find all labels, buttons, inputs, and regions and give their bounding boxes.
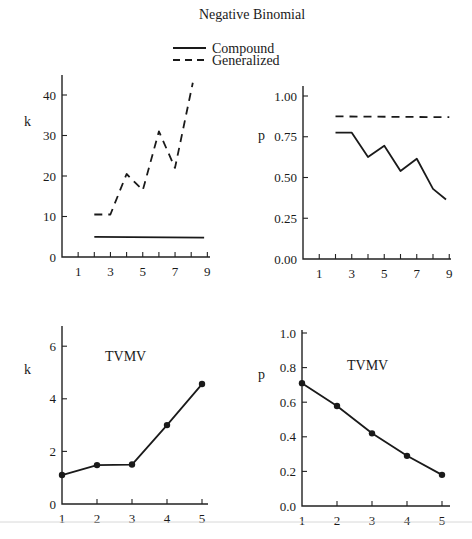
y-tick-label: 0.0: [280, 499, 296, 514]
data-point-marker: [59, 472, 65, 478]
y-tick-label: 0.50: [274, 170, 297, 185]
y-axis-label: k: [24, 114, 31, 129]
axes: [303, 86, 451, 259]
y-tick-label: 0.75: [274, 129, 297, 144]
x-tick-label: 3: [349, 266, 356, 281]
panel-annotation: TVMV: [105, 349, 146, 364]
y-tick-label: 0: [50, 497, 57, 512]
x-tick-label: 1: [299, 513, 306, 528]
y-axis-label: p: [258, 367, 265, 382]
panel-top-right-p: 0.000.250.500.751.0013579p: [258, 86, 453, 281]
x-tick-label: 7: [172, 264, 179, 279]
y-tick-label: 4: [50, 391, 57, 406]
x-tick-label: 9: [204, 264, 211, 279]
y-tick-label: 2: [50, 444, 57, 459]
figure-title: Negative Binomial: [199, 7, 305, 22]
legend-label-generalized: Generalized: [212, 53, 280, 68]
data-point-marker: [94, 462, 100, 468]
data-point-marker: [334, 403, 340, 409]
data-point-marker: [129, 461, 135, 467]
data-point-marker: [404, 453, 410, 459]
y-tick-label: 0.00: [274, 252, 297, 267]
series-line-generalized: [94, 83, 193, 215]
x-tick-label: 5: [439, 513, 446, 528]
panel-bottom-left-k-tvmv: 024612345kTVMV: [24, 326, 208, 526]
x-tick-label: 3: [369, 513, 376, 528]
y-tick-label: 20: [43, 169, 56, 184]
y-tick-label: 1.00: [274, 89, 297, 104]
axes: [62, 75, 210, 257]
y-tick-label: 30: [43, 128, 56, 143]
data-point-marker: [299, 380, 305, 386]
axes: [302, 330, 450, 506]
y-tick-label: 0.2: [280, 464, 296, 479]
data-point-marker: [164, 422, 170, 428]
y-tick-label: 0.25: [274, 211, 297, 226]
x-tick-label: 3: [107, 264, 114, 279]
y-tick-label: 0: [50, 250, 57, 265]
series-line-tvmv: [302, 383, 442, 475]
series-line-generalized: [336, 116, 450, 117]
series-line-compound: [94, 237, 204, 238]
panel-annotation: TVMV: [347, 358, 388, 373]
x-tick-label: 2: [94, 511, 101, 526]
x-tick-label: 1: [59, 511, 66, 526]
x-tick-label: 2: [334, 513, 341, 528]
y-tick-label: 0.4: [280, 429, 297, 444]
legend: Compound Generalized: [173, 41, 280, 68]
data-point-marker: [439, 472, 445, 478]
series-line-compound: [336, 133, 447, 200]
x-tick-label: 1: [75, 264, 82, 279]
y-tick-label: 10: [43, 209, 56, 224]
panel-top-left-k: 01020304013579k: [24, 75, 211, 279]
x-tick-label: 9: [446, 266, 453, 281]
y-axis-label: p: [258, 128, 265, 143]
x-tick-label: 3: [129, 511, 136, 526]
y-tick-label: 1.0: [280, 326, 296, 341]
y-axis-label: k: [24, 362, 31, 377]
x-tick-label: 5: [199, 511, 206, 526]
negative-binomial-figure: Negative Binomial Compound Generalized 0…: [0, 0, 472, 539]
data-point-marker: [199, 381, 205, 387]
x-tick-label: 4: [404, 513, 411, 528]
y-tick-label: 0.8: [280, 360, 296, 375]
x-tick-label: 5: [381, 266, 388, 281]
x-tick-label: 7: [414, 266, 421, 281]
panel-bottom-right-p-tvmv: 0.00.20.40.60.81.012345pTVMV: [258, 326, 450, 529]
y-tick-label: 6: [50, 339, 57, 354]
y-tick-label: 0.6: [280, 395, 297, 410]
x-tick-label: 4: [164, 511, 171, 526]
y-tick-label: 40: [43, 88, 56, 103]
x-tick-label: 5: [140, 264, 147, 279]
data-point-marker: [369, 430, 375, 436]
x-tick-label: 1: [316, 266, 323, 281]
